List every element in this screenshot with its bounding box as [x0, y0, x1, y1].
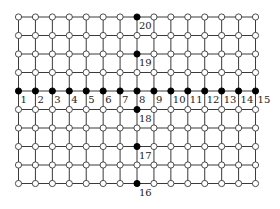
open-node	[117, 180, 123, 186]
open-node	[15, 14, 21, 20]
open-node	[15, 180, 21, 186]
open-node	[185, 162, 191, 168]
open-node	[252, 14, 258, 20]
open-node	[83, 69, 89, 75]
open-node	[151, 125, 157, 131]
node-label: 20	[139, 20, 152, 31]
open-node	[66, 51, 72, 57]
open-node	[32, 14, 38, 20]
open-node	[252, 69, 258, 75]
open-node	[185, 51, 191, 57]
open-node	[252, 143, 258, 149]
open-node	[66, 106, 72, 112]
node-label: 16	[139, 187, 152, 198]
open-node	[83, 51, 89, 57]
open-node	[168, 143, 174, 149]
open-node	[151, 32, 157, 38]
open-node	[235, 180, 241, 186]
node-label: 3	[54, 94, 60, 105]
open-node	[49, 162, 55, 168]
open-node	[134, 125, 140, 131]
open-node	[168, 162, 174, 168]
open-node	[219, 69, 225, 75]
open-node	[235, 106, 241, 112]
open-node	[32, 162, 38, 168]
open-node	[185, 32, 191, 38]
node-label: 14	[241, 94, 254, 105]
open-node	[235, 125, 241, 131]
node-label: 1	[21, 94, 27, 105]
open-node	[83, 106, 89, 112]
open-node	[202, 180, 208, 186]
open-node	[202, 69, 208, 75]
open-node	[117, 106, 123, 112]
open-node	[49, 143, 55, 149]
node-label: 17	[139, 150, 152, 161]
open-node	[32, 51, 38, 57]
open-node	[100, 143, 106, 149]
open-node	[219, 51, 225, 57]
open-node	[32, 69, 38, 75]
open-node	[49, 51, 55, 57]
open-node	[252, 106, 258, 112]
open-node	[185, 106, 191, 112]
open-node	[134, 69, 140, 75]
open-node	[219, 125, 225, 131]
open-node	[219, 162, 225, 168]
open-node	[49, 32, 55, 38]
open-node	[83, 180, 89, 186]
node-label: 5	[88, 94, 94, 105]
node-label: 12	[207, 94, 220, 105]
open-node	[49, 106, 55, 112]
node-label: 13	[224, 94, 237, 105]
open-node	[168, 69, 174, 75]
open-node	[185, 14, 191, 20]
open-node	[219, 14, 225, 20]
open-node	[117, 69, 123, 75]
open-node	[32, 106, 38, 112]
open-node	[168, 180, 174, 186]
node-labels: 1234567891011121314151617181920	[21, 20, 271, 198]
open-node	[252, 125, 258, 131]
open-node	[49, 69, 55, 75]
open-node	[235, 14, 241, 20]
open-node	[15, 143, 21, 149]
open-node	[219, 180, 225, 186]
open-node	[235, 51, 241, 57]
open-node	[235, 69, 241, 75]
open-node	[151, 106, 157, 112]
open-node	[151, 162, 157, 168]
open-node	[117, 162, 123, 168]
open-node	[100, 69, 106, 75]
open-node	[202, 14, 208, 20]
open-node	[66, 32, 72, 38]
open-node	[15, 69, 21, 75]
open-node	[235, 162, 241, 168]
open-node	[83, 14, 89, 20]
open-node	[15, 125, 21, 131]
open-node	[100, 14, 106, 20]
node-label: 19	[139, 57, 152, 68]
open-node	[168, 125, 174, 131]
open-node	[117, 143, 123, 149]
open-node	[202, 106, 208, 112]
open-node	[32, 180, 38, 186]
open-node	[15, 106, 21, 112]
open-node	[66, 14, 72, 20]
open-node	[117, 32, 123, 38]
open-node	[100, 106, 106, 112]
open-node	[15, 51, 21, 57]
open-node	[185, 125, 191, 131]
open-node	[134, 32, 140, 38]
node-label: 18	[139, 113, 152, 124]
open-node	[235, 143, 241, 149]
open-node	[83, 125, 89, 131]
node-label: 4	[71, 94, 77, 105]
open-node	[185, 180, 191, 186]
open-node	[151, 69, 157, 75]
open-node	[252, 51, 258, 57]
open-node	[83, 143, 89, 149]
open-node	[151, 143, 157, 149]
node-label: 11	[190, 94, 203, 105]
open-node	[168, 32, 174, 38]
